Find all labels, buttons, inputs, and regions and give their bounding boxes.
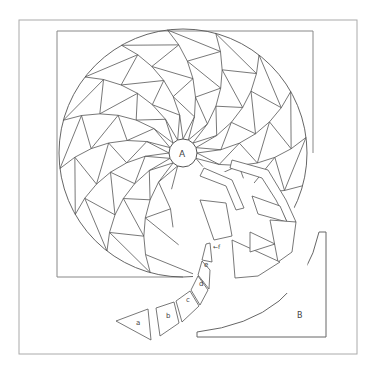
corner-label-b: B: [297, 311, 303, 320]
quilt-pattern-diagram: B A a b c d e ←f: [0, 0, 381, 367]
piece-label-b: b: [166, 312, 171, 320]
piece-label-f: ←f: [213, 243, 221, 250]
piece-label-d: d: [199, 280, 203, 288]
piece-label-c: c: [186, 296, 190, 304]
piece-label-e: e: [204, 261, 208, 269]
center-label-a: A: [179, 149, 186, 159]
piece-label-a: a: [136, 319, 140, 327]
